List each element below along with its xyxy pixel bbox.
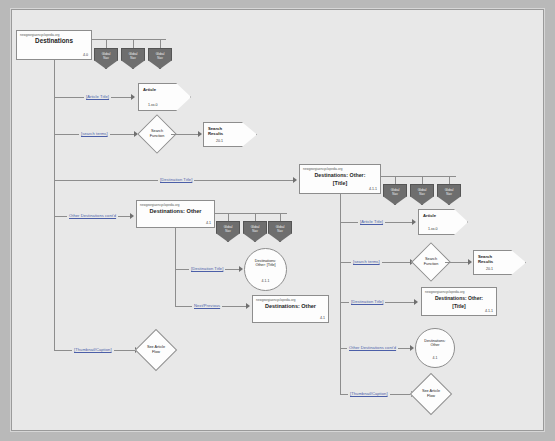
connector <box>228 213 229 221</box>
link-search-terms[interactable]: [search terms] <box>351 259 382 265</box>
link-next-previous[interactable]: Next/Previous <box>192 303 222 309</box>
node-number: 1.xx.0 <box>148 103 158 107</box>
diagram-canvas: newgeorgiaencyclopedia.org Destinations … <box>11 9 544 431</box>
connector <box>171 134 200 135</box>
arrow-head <box>414 299 418 305</box>
connector <box>449 176 450 184</box>
node-search-results-right[interactable]: SearchResults 20.1 <box>473 250 526 275</box>
connector <box>280 213 281 221</box>
node-title: SearchFunction <box>143 129 171 138</box>
connector <box>395 176 396 184</box>
shield-global-nav[interactable]: GlobalNav <box>437 184 461 205</box>
link-other-destinations[interactable]: Other Destinations cont'd <box>67 213 118 219</box>
shield-label: GlobalNav <box>384 189 406 196</box>
node-title: Article <box>423 213 436 218</box>
node-title: See ArticleFlow <box>141 345 171 354</box>
node-destinations-root[interactable]: newgeorgiaencyclopedia.org Destinations … <box>16 30 92 60</box>
link-article-title[interactable]: [Article Title] <box>358 219 385 225</box>
node-destinations-other-nextprev[interactable]: newgeorgiaencyclopedia.org Destinations:… <box>252 295 329 323</box>
node-destinations-other-title-right[interactable]: newgeorgiaencyclopedia.org Destinations:… <box>421 287 497 316</box>
node-article-right[interactable]: Article 1.xx.0 <box>418 209 468 235</box>
node-search-function-right[interactable]: SearchFunction <box>417 248 445 276</box>
connector <box>133 39 134 48</box>
connector <box>215 213 287 214</box>
shield-label: GlobalNav <box>269 226 291 233</box>
connector <box>422 176 423 184</box>
node-number: 4.1.1 <box>485 309 493 313</box>
node-destinations-other-left[interactable]: newgeorgiaencyclopedia.org Destinations:… <box>136 200 215 228</box>
shield-global-nav[interactable]: GlobalNav <box>243 221 267 242</box>
node-title: SearchResults <box>478 254 493 264</box>
node-title: Article <box>143 87 156 92</box>
connector <box>255 213 256 221</box>
node-number: 4.0 <box>83 53 88 57</box>
arrow-head <box>412 219 416 225</box>
arrow-head <box>410 345 414 351</box>
shield-label: GlobalNav <box>217 226 239 233</box>
shield-global-nav[interactable]: GlobalNav <box>148 48 172 69</box>
node-title: See ArticleFlow <box>416 389 446 398</box>
shield-label: GlobalNav <box>244 226 266 233</box>
shield-label: GlobalNav <box>411 189 433 196</box>
link-thumbnail-caption[interactable]: [Thumbnail/Caption] <box>348 391 390 397</box>
shield-label: GlobalNav <box>438 189 460 196</box>
node-title: Destinations:Other: [Title] <box>245 259 286 268</box>
node-title: Destinations:Other <box>416 339 454 348</box>
node-see-article-flow-left[interactable]: See ArticleFlow <box>141 335 171 365</box>
shield-label: GlobalNav <box>149 53 171 60</box>
node-title: Destinations <box>20 37 88 45</box>
connector <box>106 39 107 48</box>
node-number: 20.1 <box>486 267 493 271</box>
shield-global-nav[interactable]: GlobalNav <box>410 184 434 205</box>
node-article-left[interactable]: Article 1.xx.0 <box>138 83 191 111</box>
connector-main-spine <box>54 60 55 350</box>
node-circle-other-title[interactable]: Destinations:Other: [Title] 4.1.1 <box>244 248 287 291</box>
shield-global-nav[interactable]: GlobalNav <box>216 221 240 242</box>
node-see-article-flow-right[interactable]: See ArticleFlow <box>416 379 446 409</box>
arrow-head <box>468 259 472 265</box>
connector-right-spine <box>340 194 341 394</box>
link-other-destinations[interactable]: Other Destinations cont'd <box>347 345 398 351</box>
node-title: SearchResults <box>208 126 223 136</box>
connector <box>92 39 166 40</box>
connector <box>381 176 456 177</box>
node-circle-other[interactable]: Destinations:Other 4.1 <box>415 328 455 368</box>
link-thumbnail-caption[interactable]: [Thumbnail/Caption] <box>72 347 114 353</box>
node-title: Destinations: Other:[Title] <box>303 171 377 187</box>
node-number: 4.1 <box>320 316 325 320</box>
link-destination-title[interactable]: [Destination Title] <box>189 266 225 272</box>
connector <box>445 262 470 263</box>
arrow-head <box>246 303 250 309</box>
link-destination-title[interactable]: [Destination Title] <box>349 299 385 305</box>
connector-sub-spine <box>175 228 176 306</box>
shield-label: GlobalNav <box>122 53 144 60</box>
node-number: 4.1 <box>206 221 211 225</box>
arrow-head <box>198 131 202 137</box>
link-search-terms[interactable]: [search terms] <box>79 131 110 137</box>
node-number: 4.1.1 <box>245 279 286 283</box>
shield-global-nav[interactable]: GlobalNav <box>94 48 118 69</box>
diagram-stage: newgeorgiaencyclopedia.org Destinations … <box>12 10 543 430</box>
node-number: 1.xx.0 <box>428 227 438 231</box>
connector <box>160 39 161 48</box>
node-destinations-other-title-center[interactable]: newgeorgiaencyclopedia.org Destinations:… <box>299 164 381 194</box>
shield-label: GlobalNav <box>95 53 117 60</box>
node-title: Destinations: Other:[Title] <box>425 294 493 310</box>
link-article-title[interactable]: [Article Title] <box>84 94 111 100</box>
node-title: SearchFunction <box>417 257 445 266</box>
arrow-head <box>131 94 135 100</box>
node-title: Destinations: Other <box>140 207 211 215</box>
node-search-results-left[interactable]: SearchResults 20.1 <box>203 122 257 147</box>
arrow-head <box>130 213 134 219</box>
arrow-head <box>293 177 297 183</box>
node-search-function-left[interactable]: SearchFunction <box>143 120 171 148</box>
arrow-head <box>239 266 243 272</box>
shield-global-nav[interactable]: GlobalNav <box>121 48 145 69</box>
link-destination-title[interactable]: [Destination Title] <box>158 177 194 183</box>
shield-global-nav[interactable]: GlobalNav <box>268 221 292 242</box>
node-number: 4.1.1 <box>369 187 377 191</box>
shield-global-nav[interactable]: GlobalNav <box>383 184 407 205</box>
node-number: 4.1 <box>416 356 454 360</box>
node-number: 20.1 <box>216 139 223 143</box>
node-title: Destinations: Other <box>256 302 325 310</box>
